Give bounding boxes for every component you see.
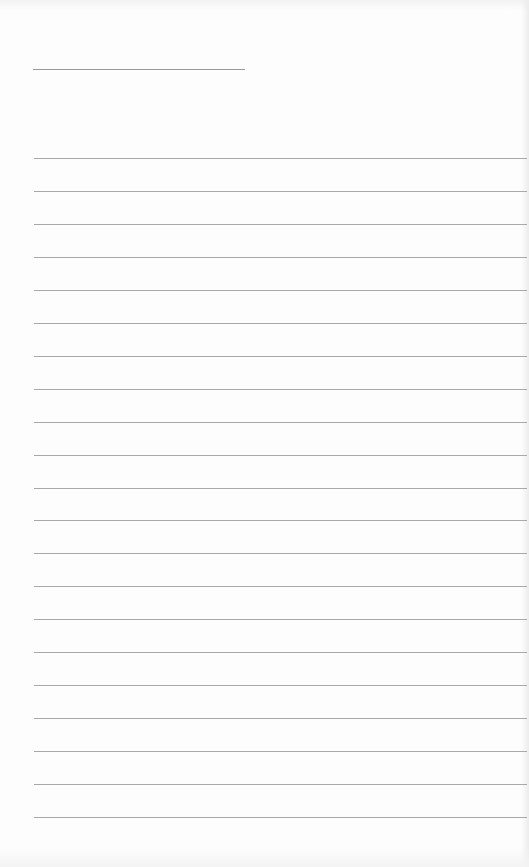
ruled-line <box>34 257 527 258</box>
ruled-line <box>34 751 527 752</box>
ruled-line <box>34 817 527 818</box>
scan-edge-shadow-right <box>521 0 529 867</box>
ruled-line <box>34 356 527 357</box>
ruled-line <box>34 784 527 785</box>
ruled-line <box>34 488 527 489</box>
scan-edge-shadow-bottom <box>0 847 529 867</box>
title-line <box>33 69 245 70</box>
ruled-line <box>34 652 527 653</box>
ruled-line <box>34 685 527 686</box>
ruled-line <box>34 323 527 324</box>
ruled-line <box>34 158 527 159</box>
ruled-line <box>34 520 527 521</box>
ruled-line <box>34 455 527 456</box>
ruled-line <box>34 224 527 225</box>
ruled-line <box>34 290 527 291</box>
ruled-line <box>34 422 527 423</box>
scan-edge-shadow-top <box>0 0 529 10</box>
ruled-line <box>34 619 527 620</box>
ruled-line <box>34 586 527 587</box>
ruled-line <box>34 553 527 554</box>
ruled-line <box>34 718 527 719</box>
lined-paper-page <box>0 0 529 867</box>
ruled-line <box>34 191 527 192</box>
ruled-line <box>34 389 527 390</box>
